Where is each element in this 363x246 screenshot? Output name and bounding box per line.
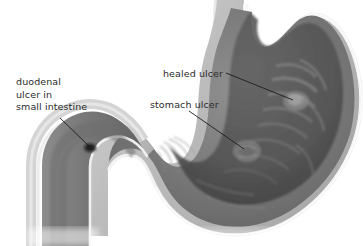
label-stomach-ulcer: stomach ulcer bbox=[150, 99, 219, 112]
stomach-illustration bbox=[0, 0, 363, 246]
healed-ulcer-site bbox=[283, 91, 309, 111]
duodenal-ulcer-site bbox=[84, 143, 97, 153]
label-healed-ulcer: healed ulcer bbox=[163, 68, 223, 81]
bottom-fade bbox=[28, 228, 340, 246]
label-duodenal-ulcer: duodenal ulcer in small intestine bbox=[16, 76, 87, 114]
stomach-ulcer-site bbox=[233, 140, 261, 162]
anatomy-svg bbox=[0, 0, 363, 246]
